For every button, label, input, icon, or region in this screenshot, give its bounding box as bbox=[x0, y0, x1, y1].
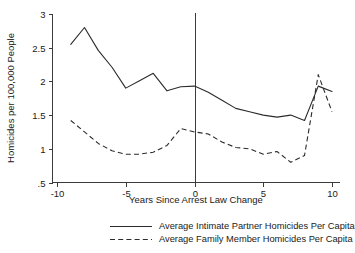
series-line-intimate-partner bbox=[71, 27, 332, 120]
y-tick-label: .5 bbox=[38, 178, 46, 189]
y-axis-title: Homicides per 100,000 People bbox=[5, 33, 16, 163]
legend-item-intimate-partner: Average Intimate Partner Homicides Per C… bbox=[108, 219, 348, 232]
x-tick-label: -10 bbox=[51, 188, 65, 199]
legend-label-family-member: Average Family Member Homicides Per Capi… bbox=[159, 234, 353, 244]
y-tick-label: 2 bbox=[40, 76, 45, 87]
y-tick-label: 3 bbox=[40, 9, 45, 20]
x-tick-marks bbox=[58, 183, 333, 187]
y-tick-label: 1 bbox=[40, 144, 45, 155]
y-tick-marks bbox=[49, 15, 53, 184]
chart-axes bbox=[53, 14, 341, 183]
chart-legend: Average Intimate Partner Homicides Per C… bbox=[108, 219, 348, 245]
series-line-family-member bbox=[71, 75, 332, 163]
x-tick-label: 10 bbox=[327, 188, 338, 199]
legend-key-solid-line bbox=[108, 220, 154, 232]
y-tick-label: 2.5 bbox=[32, 43, 45, 54]
y-tick-label: 1.5 bbox=[32, 110, 45, 121]
legend-key-dashed-line bbox=[108, 233, 154, 245]
y-tick-labels: .511.522.53 bbox=[32, 9, 45, 189]
x-axis-title: Years Since Arrest Law Change bbox=[129, 194, 263, 205]
legend-item-family-member: Average Family Member Homicides Per Capi… bbox=[108, 232, 348, 245]
legend-label-intimate-partner: Average Intimate Partner Homicides Per C… bbox=[159, 221, 355, 231]
